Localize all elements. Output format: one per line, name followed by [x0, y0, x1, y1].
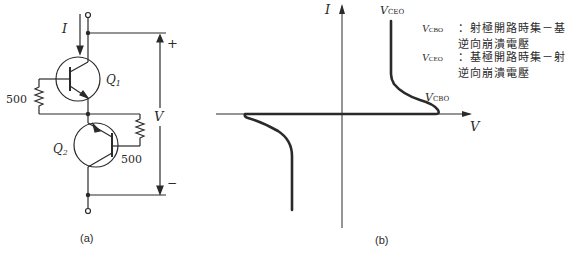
y-axis-arrowhead: [339, 4, 345, 14]
current-arrowhead: [77, 46, 83, 54]
legend-text: ：基極開路時集－射: [458, 51, 568, 67]
legend-text: ：射極開路時集－基: [458, 22, 568, 38]
resistor-1: [35, 79, 43, 114]
caption-b: (b): [375, 234, 388, 246]
voltage-label: V: [154, 109, 165, 124]
vceo-label: VCEO: [380, 4, 404, 17]
legend-item-vceo: VCEO ：基極開路時集－射: [422, 51, 568, 67]
q2-emitter: [88, 123, 112, 137]
minus-sign: −: [167, 176, 177, 190]
x-axis-arrowhead: [462, 111, 472, 117]
v-arrowhead-up: [157, 35, 163, 42]
legend-item-vcbo: VCBO ：射極開路時集－基: [422, 22, 568, 38]
q2-label: Q2: [53, 142, 68, 157]
resistor-2-value: 500: [121, 153, 142, 166]
bottom-terminal: [86, 209, 91, 214]
plus-sign: +: [167, 36, 178, 51]
q1-label: Q1: [106, 73, 121, 88]
q2-collector: [88, 153, 112, 167]
x-axis-label: V: [470, 119, 481, 134]
caption-a: (a): [80, 232, 93, 244]
legend: VCBO ：射極開路時集－基 逆向崩潰電壓 VCEO ：基極開路時集－射 逆向崩…: [422, 22, 568, 80]
legend-symbol: VCBO: [422, 22, 458, 38]
circuit-a: [35, 13, 166, 214]
top-terminal: [86, 13, 91, 18]
y-axis-label: I: [324, 2, 331, 17]
vcbo-label: VCBO: [425, 91, 450, 104]
resistor-2: [136, 114, 144, 146]
v-arrowhead-down: [157, 186, 163, 194]
legend-text-cont: 逆向崩潰電壓: [422, 67, 568, 81]
q1-emitter-arrow: [80, 91, 88, 98]
q2-emitter-arrow: [93, 124, 100, 132]
current-label: I: [61, 21, 68, 36]
legend-text-cont: 逆向崩潰電壓: [422, 38, 568, 52]
q1-collector: [70, 62, 88, 72]
resistor-1-value: 500: [6, 93, 27, 106]
legend-symbol: VCEO: [422, 51, 458, 67]
